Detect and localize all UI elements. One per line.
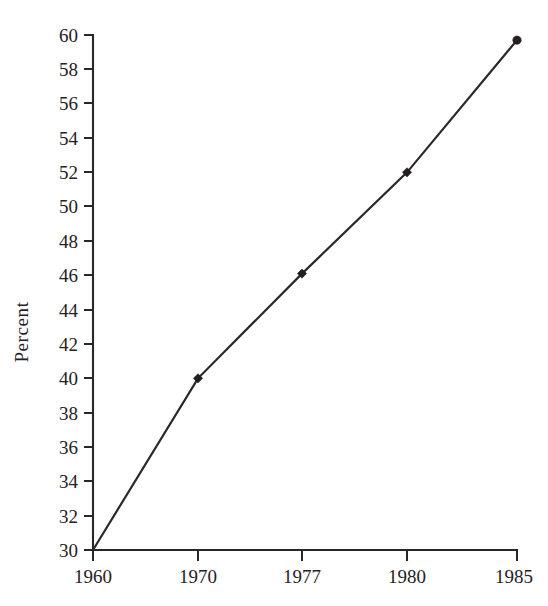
y-tick-label: 30	[59, 540, 78, 561]
y-tick-label: 60	[59, 25, 78, 46]
line-chart: 30 32 34 36 38 40 42 44 46 48 50 52 54 5…	[0, 0, 548, 606]
y-tick-label: 48	[59, 231, 78, 252]
x-tick-label: 1977	[283, 566, 321, 587]
y-tick-label: 56	[59, 93, 78, 114]
y-tick-label: 40	[59, 368, 78, 389]
x-tick-label: 1980	[388, 566, 426, 587]
y-tick-label: 32	[59, 506, 78, 527]
y-tick-label: 52	[59, 162, 78, 183]
y-tick-label: 58	[59, 59, 78, 80]
y-tick-label: 36	[59, 437, 78, 458]
x-tick-label: 1960	[74, 566, 112, 587]
y-tick-label: 42	[59, 334, 78, 355]
y-tick-label: 34	[59, 471, 79, 492]
y-axis-title: Percent	[11, 301, 32, 362]
data-point-marker	[513, 36, 521, 44]
x-tick-label: 1970	[179, 566, 217, 587]
chart-figure: 30 32 34 36 38 40 42 44 46 48 50 52 54 5…	[0, 0, 548, 606]
y-tick-label: 50	[59, 196, 78, 217]
y-tick-label: 46	[59, 265, 78, 286]
y-tick-label: 44	[59, 300, 79, 321]
y-tick-label: 38	[59, 403, 78, 424]
y-tick-label: 54	[59, 128, 79, 149]
x-tick-label: 1985	[495, 566, 533, 587]
